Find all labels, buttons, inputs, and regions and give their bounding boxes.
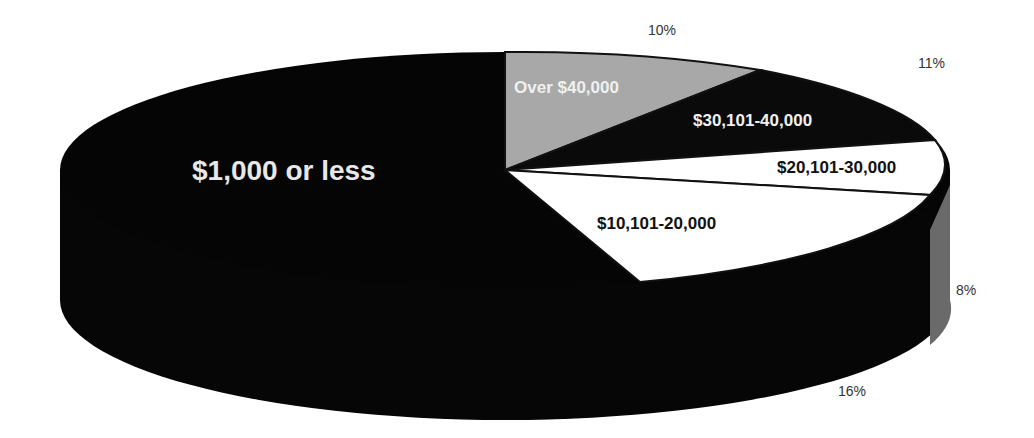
- pct-10101-20000: 16%: [838, 383, 866, 399]
- pie-chart-3d: $1,000 or less Over $40,000 $30,101-40,0…: [0, 0, 1034, 438]
- label-slice-20101-30000: $20,101-30,000: [777, 158, 896, 178]
- label-slice-30101-40000: $30,101-40,000: [693, 111, 812, 131]
- label-slice-10101-20000: $10,101-20,000: [597, 214, 716, 234]
- label-slice-1000-or-less: $1,000 or less: [192, 155, 376, 187]
- pct-20101-30000: 8%: [956, 282, 976, 298]
- pie-chart-graphic: [0, 0, 1034, 438]
- label-slice-over-40000: Over $40,000: [514, 78, 619, 98]
- pct-30101-40000: 11%: [918, 55, 945, 71]
- pct-over-40000: 10%: [648, 22, 676, 38]
